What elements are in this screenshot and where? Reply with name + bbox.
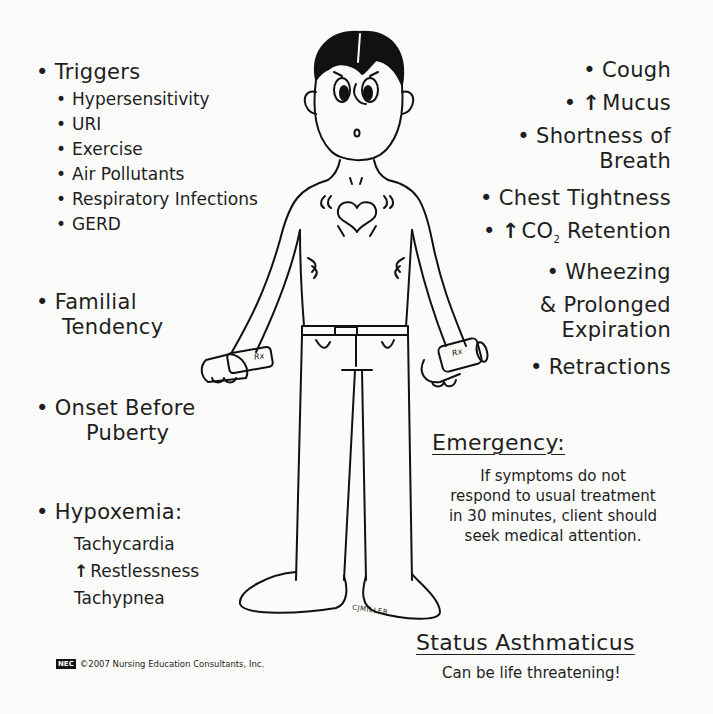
- onset-before-puberty: Onset Before Puberty: [36, 396, 196, 446]
- trigger-item: Respiratory Infections: [56, 187, 258, 212]
- heart: [338, 202, 376, 232]
- nec-logo: NEC: [56, 659, 76, 669]
- emergency-line: respond to usual treatment: [428, 486, 678, 506]
- trigger-item: Exercise: [56, 137, 258, 162]
- triggers-section: Triggers Hypersensitivity URI Exercise A…: [36, 60, 258, 237]
- onset-line-1: Onset Before: [36, 396, 196, 421]
- trigger-item: URI: [56, 112, 258, 137]
- symptom-retractions: Retractions: [411, 355, 671, 380]
- symptom-sob-line-2: Breath: [411, 149, 671, 174]
- onset-line-2: Puberty: [36, 421, 196, 446]
- emergency-line: seek medical attention.: [428, 526, 678, 546]
- hypoxemia-item: Tachycardia: [74, 531, 199, 558]
- status-asthmaticus-heading: Status Asthmaticus: [416, 630, 635, 655]
- familial-line-2: Tendency: [36, 315, 163, 340]
- hypoxemia-item: Tachypnea: [74, 585, 199, 612]
- up-arrow-icon: ↑: [74, 561, 88, 581]
- trigger-item: Hypersensitivity: [56, 87, 258, 112]
- symptom-co2-retention: ↑CO2 Retention: [411, 219, 671, 252]
- up-arrow-icon: ↑: [502, 219, 520, 243]
- emergency-line: If symptoms do not: [428, 466, 678, 486]
- familial-tendency: Familial Tendency: [36, 290, 163, 340]
- emergency-heading: Emergency:: [432, 430, 565, 455]
- emergency-line: in 30 minutes, client should: [428, 506, 678, 526]
- symptom-prolonged-line-2: Expiration: [411, 318, 671, 343]
- symptom-cough: Cough: [411, 58, 671, 83]
- symptoms-section: Cough ↑Mucus Shortness of Breath Chest T…: [411, 58, 671, 380]
- copyright-text: ©2007 Nursing Education Consultants, Inc…: [80, 659, 264, 669]
- left-inhaler-rx-label: Rx: [253, 351, 265, 362]
- symptom-sob-line-1: Shortness of: [411, 124, 671, 149]
- left-shoe: [240, 572, 346, 613]
- symptom-wheezing: Wheezing: [411, 260, 671, 285]
- familial-line-1: Familial: [36, 290, 163, 315]
- symptom-chest-tightness: Chest Tightness: [411, 186, 671, 211]
- status-asthmaticus-subtitle: Can be life threatening!: [442, 664, 621, 682]
- hypoxemia-item: ↑Restlessness: [74, 558, 199, 585]
- hypoxemia-section: Hypoxemia: Tachycardia ↑Restlessness Tac…: [36, 500, 199, 612]
- trigger-item: GERD: [56, 212, 258, 237]
- emergency-text: If symptoms do not respond to usual trea…: [428, 466, 678, 546]
- triggers-heading: Triggers: [36, 60, 258, 85]
- copyright-footer: NEC ©2007 Nursing Education Consultants,…: [56, 659, 264, 669]
- symptom-prolonged-line-1: & Prolonged: [411, 293, 671, 318]
- trigger-item: Air Pollutants: [56, 162, 258, 187]
- symptom-mucus: ↑Mucus: [411, 91, 671, 116]
- hypoxemia-heading: Hypoxemia:: [36, 500, 199, 525]
- up-arrow-icon: ↑: [582, 91, 600, 115]
